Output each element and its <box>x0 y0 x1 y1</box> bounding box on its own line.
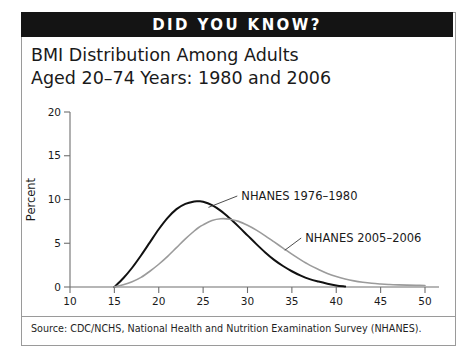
y-axis-title: Percent <box>24 177 38 221</box>
did-you-know-banner: DID YOU KNOW? <box>21 12 453 37</box>
annotation-label-2005-2006: NHANES 2005–2006 <box>305 231 421 245</box>
x-axis-tick-label: 20 <box>152 295 165 307</box>
chart-plot-container: 05101520101520253035404550PercentBMINHAN… <box>21 96 456 311</box>
y-axis-tick-label: 0 <box>54 281 61 293</box>
x-axis-tick-label: 35 <box>285 295 298 307</box>
x-axis-tick-label: 30 <box>241 295 254 307</box>
y-axis-tick-label: 5 <box>54 237 61 249</box>
bmi-distribution-chart: 05101520101520253035404550PercentBMINHAN… <box>21 96 456 311</box>
y-axis-tick-label: 20 <box>48 106 61 118</box>
x-axis-tick-label: 40 <box>330 295 343 307</box>
chart-title-line-2: Aged 20–74 Years: 1980 and 2006 <box>31 67 431 90</box>
x-axis-tick-label: 10 <box>63 295 76 307</box>
annotation-label-1976-1980: NHANES 1976–1980 <box>241 189 357 203</box>
x-axis-tick-label: 45 <box>374 295 387 307</box>
series-line-2005-2006 <box>114 219 425 287</box>
annotation-leader-line <box>285 238 301 250</box>
banner-label: DID YOU KNOW? <box>152 16 322 34</box>
source-divider <box>22 316 455 317</box>
figure-page: DID YOU KNOW? BMI Distribution Among Adu… <box>0 0 472 364</box>
y-axis-tick-label: 10 <box>48 193 61 205</box>
y-axis-tick-label: 15 <box>48 149 61 161</box>
chart-title: BMI Distribution Among Adults Aged 20–74… <box>31 44 431 90</box>
source-note: Source: CDC/NCHS, National Health and Nu… <box>31 323 422 334</box>
x-axis-tick-label: 50 <box>418 295 431 307</box>
x-axis-tick-label: 15 <box>108 295 121 307</box>
annotation-leader-line <box>208 196 237 207</box>
x-axis-tick-label: 25 <box>196 295 209 307</box>
chart-title-line-1: BMI Distribution Among Adults <box>31 44 431 67</box>
